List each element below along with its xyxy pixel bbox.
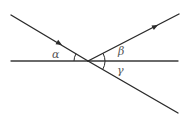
reflected-ray (88, 14, 179, 61)
angle-label-alpha: α (52, 48, 60, 61)
reflected-arrow-icon (151, 23, 159, 30)
angle-label-beta: β (117, 45, 124, 58)
ray-angle-diagram: α β γ (0, 0, 186, 121)
through-ray (88, 61, 178, 113)
angle-label-gamma: γ (117, 64, 124, 77)
incident-ray (11, 15, 88, 61)
alpha-arc (74, 54, 76, 61)
